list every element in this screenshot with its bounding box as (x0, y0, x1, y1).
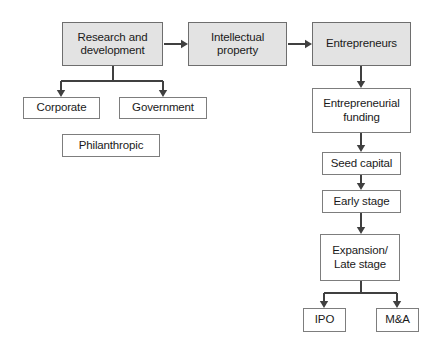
arrowhead-expansion-to-ma (393, 301, 401, 308)
arrowhead-early-to-expansion (357, 227, 365, 234)
node-early-stage[interactable]: Early stage (322, 190, 401, 213)
node-m-and-a[interactable]: M&A (376, 308, 419, 332)
arrowhead-rd-to-government (159, 90, 167, 97)
arrowhead-seed-to-early (357, 183, 365, 190)
arrowhead-rd-to-ip (181, 40, 188, 48)
node-research-and-development[interactable]: Research and development (62, 22, 163, 66)
flow-diagram: Research and developmentIntellectual pro… (0, 0, 436, 351)
node-expansion-late-stage[interactable]: Expansion/ Late stage (320, 234, 400, 281)
arrowhead-ip-to-entrepreneurs (305, 40, 312, 48)
arrowhead-expansion-to-ipo (320, 301, 328, 308)
node-seed-capital[interactable]: Seed capital (322, 152, 401, 175)
node-corporate[interactable]: Corporate (23, 97, 100, 119)
arrowhead-funding-to-seed (357, 145, 365, 152)
arrowhead-rd-to-corporate (57, 90, 65, 97)
node-entrepreneurs[interactable]: Entrepreneurs (312, 22, 411, 66)
arrowhead-entrepreneurs-to-funding (357, 81, 365, 88)
node-philanthropic[interactable]: Philanthropic (62, 134, 160, 157)
node-ipo[interactable]: IPO (303, 308, 346, 332)
node-intellectual-property[interactable]: Intellectual property (188, 22, 287, 66)
node-government[interactable]: Government (119, 97, 207, 119)
node-entrepreneurial-funding[interactable]: Entrepreneurial funding (312, 88, 411, 133)
